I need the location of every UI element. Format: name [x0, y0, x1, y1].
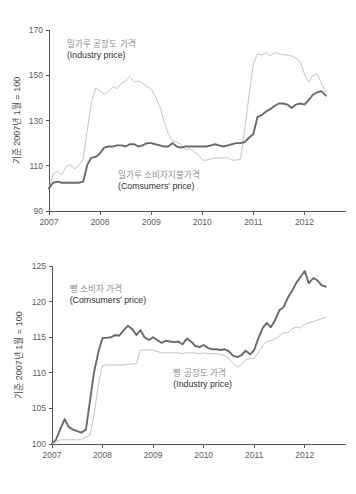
- y-tick-label: 110: [32, 368, 46, 378]
- x-tick-label: 2007: [40, 217, 59, 227]
- industry-price-label-en: (Industry price): [173, 379, 232, 389]
- x-tick-label: 2009: [142, 217, 161, 227]
- x-tick-label: 2012: [295, 217, 314, 227]
- bread-plot-area: 1001051101151201252007200820092010201120…: [0, 247, 356, 494]
- y-tick-label: 100: [32, 439, 46, 449]
- y-tick-label: 105: [32, 403, 46, 413]
- consumers-price-label-en: (Comsumers' price): [118, 181, 195, 191]
- y-tick-label: 90: [34, 206, 44, 216]
- x-tick-label: 2012: [295, 450, 314, 460]
- series-line-light: [49, 53, 326, 189]
- bread-price-chart: 1001051101151201252007200820092010201120…: [0, 247, 356, 494]
- consumers-price-label-en: (Comsumers' price): [70, 295, 147, 305]
- x-tick-label: 2010: [194, 450, 213, 460]
- wheat-flour-price-chart: 90110130150170200720082009201020112012기준…: [0, 0, 356, 247]
- y-tick-label: 150: [29, 70, 43, 80]
- y-axis-title: 기준 2007년 1월 = 100: [13, 311, 24, 398]
- x-tick-label: 2011: [244, 217, 263, 227]
- y-tick-label: 125: [32, 261, 46, 271]
- x-tick-label: 2008: [91, 217, 110, 227]
- industry-price-label-en: (Industry price): [67, 50, 126, 60]
- y-tick-label: 115: [32, 332, 46, 342]
- y-axis-title: 기준 2007년 1월 = 100: [11, 77, 22, 164]
- wheat-flour-plot-area: 90110130150170200720082009201020112012기준…: [0, 0, 356, 247]
- y-tick-label: 110: [29, 161, 43, 171]
- y-tick-label: 170: [29, 25, 43, 35]
- y-tick-label: 120: [32, 297, 46, 307]
- x-tick-label: 2010: [193, 217, 212, 227]
- x-tick-label: 2007: [43, 450, 62, 460]
- x-tick-label: 2009: [144, 450, 163, 460]
- y-tick-label: 130: [29, 116, 43, 126]
- x-tick-label: 2011: [245, 450, 264, 460]
- industry-price-label-ko: 빵 공장도 가격: [173, 367, 226, 378]
- consumers-price-label-ko: 밀가루 소비자지불가격: [118, 169, 200, 180]
- industry-price-label-ko: 밀가루 공장도 가격: [67, 38, 136, 49]
- x-tick-label: 2008: [93, 450, 112, 460]
- consumers-price-label-ko: 빵 소비자 가격: [70, 283, 123, 294]
